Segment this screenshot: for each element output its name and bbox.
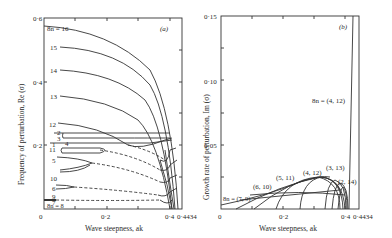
label-14: 14 — [50, 67, 58, 75]
panel-a — [44, 18, 182, 209]
label-11: 11 — [49, 146, 56, 154]
label-3-13: (3, 13) — [326, 164, 345, 172]
ytick-0.10: 0·10 — [204, 78, 217, 86]
label-8: 8n = 8 — [47, 202, 64, 209]
panel-label: (a) — [160, 25, 169, 33]
label-4-12: (4, 12) — [303, 169, 322, 177]
xtick-0.2: 0·2 — [101, 213, 111, 221]
label-4-12-upper: 8n = (4, 12) — [312, 97, 346, 105]
ytick-0.15: 0·15 — [204, 13, 217, 21]
ytick-0.2: 0·2 — [33, 142, 43, 150]
xtick-0.2: 0·2 — [279, 213, 289, 221]
curve-14 — [60, 70, 172, 209]
label-5-11: (5, 11) — [276, 174, 295, 182]
label-5: 5 — [52, 157, 56, 165]
label-7-9: 8n = (7, 9) — [223, 195, 251, 203]
curve-10 — [56, 185, 74, 189]
curve-16 — [44, 26, 178, 209]
xtick-0.4: 0·4 — [165, 213, 175, 221]
label-6-10: (6, 10) — [253, 183, 272, 191]
xtick-0.4: 0·4 — [341, 213, 351, 221]
y-axis-label: Frequency of perturbation, Re (σ) — [17, 83, 26, 185]
label-12: 12 — [49, 121, 57, 129]
xtick-0.4434: 0·4434 — [177, 213, 197, 221]
x-axis-label: Wave steepness, ak — [85, 224, 143, 233]
label-13: 13 — [50, 93, 58, 101]
ytick-0.6: 0·6 — [33, 15, 43, 23]
xtick-0: 0 — [39, 213, 43, 221]
xtick-0.4434: 0·4434 — [353, 213, 373, 221]
label-15: 15 — [50, 44, 58, 52]
figure: 0·6 0·4 0·2 0 0·2 0·4 0·4434 Wave steepn… — [0, 0, 392, 238]
curve-11 — [57, 157, 92, 170]
label-10: 10 — [50, 175, 58, 183]
label-4: 4 — [65, 140, 69, 148]
label-16: 8n = 16 — [47, 25, 69, 33]
y-axis-label: Growth rate of perturbation, Im (σ) — [202, 94, 211, 200]
ytick-0.4: 0·4 — [33, 79, 43, 87]
panel-label: (b) — [339, 23, 348, 31]
label-6: 6 — [52, 185, 56, 193]
label-2-14: (2, 14) — [338, 178, 357, 186]
label-3: 3 — [57, 135, 61, 143]
curve-4 — [61, 148, 105, 153]
x-axis-label: Wave steepness, ak — [259, 224, 317, 233]
xtick-0: 0 — [218, 213, 222, 221]
